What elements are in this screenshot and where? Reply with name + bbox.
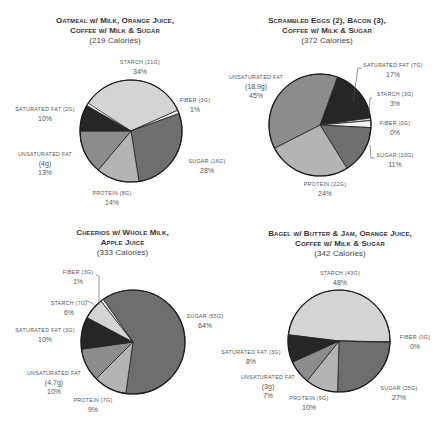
label-grams: (4.7g) <box>22 378 86 387</box>
label-saturated-fat: saturated fat (3g) 8% <box>218 348 284 366</box>
label-percent: 3% <box>370 99 420 108</box>
title-line-1: Oatmeal w/ Milk, Orange Juice, <box>40 16 190 26</box>
label-percent: 0% <box>392 342 438 351</box>
label-percent: 27% <box>372 393 426 402</box>
chart-title-cheerios: Cheerios w/ Whole Milk, Apple Juice (333… <box>60 228 185 258</box>
calories-label: (219 Calories) <box>40 36 190 46</box>
label-starch: starch (7g) 6% <box>46 299 92 317</box>
label-percent: 14% <box>82 198 142 207</box>
label-saturated-fat: saturated fat (7g) 17% <box>360 61 426 79</box>
label-name: sugar (16g) <box>180 157 234 166</box>
label-protein: protein (22g) 24% <box>295 180 355 198</box>
label-percent: 1% <box>58 277 98 286</box>
title-line-1: Cheerios w/ Whole Milk, <box>60 228 185 238</box>
label-starch: starch (3g) 3% <box>370 90 420 108</box>
label-protein: protein (8g) 14% <box>82 189 142 207</box>
title-line-2: Coffee w/ Milk & Sugar <box>40 26 190 36</box>
label-sugar: sugar (10g) 11% <box>370 151 420 169</box>
label-percent: 17% <box>360 70 426 79</box>
chart-title-oatmeal: Oatmeal w/ Milk, Orange Juice, Coffee w/… <box>40 16 190 46</box>
label-name: unsaturated fat <box>22 369 86 378</box>
label-name: fiber (3g) <box>58 268 98 277</box>
label-name: protein (7g) <box>70 396 116 405</box>
label-name: protein (22g) <box>295 180 355 189</box>
label-name: unsaturated fat <box>14 150 76 159</box>
label-percent: 0% <box>372 128 418 137</box>
label-name: saturated fat (2g) <box>8 105 82 114</box>
title-line-2: Coffee w/ Milk & Sugar <box>250 239 430 249</box>
label-percent: 64% <box>180 321 230 330</box>
label-name: protein (8g) <box>82 189 142 198</box>
label-starch: starch (21g) 34% <box>110 58 170 76</box>
label-grams: (3g) <box>238 382 298 391</box>
label-percent: 13% <box>14 168 76 177</box>
label-percent: 48% <box>315 278 365 287</box>
chart-title-eggs-bacon: Scrambled Eggs (2), Bacon (3), Coffee w/… <box>262 16 392 46</box>
label-percent: 10% <box>8 114 82 123</box>
label-name: sugar (10g) <box>370 151 420 160</box>
label-percent: 10% <box>22 387 86 396</box>
label-name: starch (3g) <box>370 90 420 99</box>
label-fiber: fiber (3g) 1% <box>170 96 220 114</box>
label-percent: 1% <box>170 105 220 114</box>
pie-chart-cheerios <box>81 290 185 394</box>
label-percent: 45% <box>224 91 288 100</box>
label-fiber: fiber (3g) 1% <box>58 268 98 286</box>
label-saturated-fat: saturated fat (2g) 10% <box>8 105 82 123</box>
label-name: fiber (0g) <box>392 333 438 342</box>
label-fiber: fiber (0g) 0% <box>372 119 418 137</box>
label-name: unsaturated fat <box>224 73 288 82</box>
label-name: saturated fat (7g) <box>360 61 426 70</box>
label-name: saturated fat (3g) <box>10 326 80 335</box>
title-line-1: Scrambled Eggs (2), Bacon (3), <box>262 16 392 26</box>
title-line-2: Coffee w/ Milk & Sugar <box>262 26 392 36</box>
label-percent: 28% <box>180 166 234 175</box>
label-name: fiber (0g) <box>372 119 418 128</box>
label-grams: (18.9g) <box>224 82 288 91</box>
label-percent: 9% <box>70 405 116 414</box>
label-name: sugar (55g) <box>180 312 230 321</box>
calories-label: (372 Calories) <box>262 36 392 46</box>
label-unsaturated-fat: unsaturated fat (4g) 13% <box>14 150 76 177</box>
label-sugar: sugar (55g) 64% <box>180 312 230 330</box>
label-grams: (4g) <box>14 159 76 168</box>
label-name: sugar (25g) <box>372 384 426 393</box>
label-name: starch (7g) <box>46 299 92 308</box>
label-unsaturated-fat: unsaturated fat (3g) 7% <box>238 373 298 400</box>
label-percent: 7% <box>238 391 298 400</box>
title-line-2: Apple Juice <box>60 238 185 248</box>
label-percent: 10% <box>10 335 80 344</box>
title-line-1: Bagel w/ Butter & Jam, Orange Juice, <box>250 229 430 239</box>
label-saturated-fat: saturated fat (3g) 10% <box>10 326 80 344</box>
pie-slice-starch <box>288 290 390 342</box>
label-percent: 11% <box>370 160 420 169</box>
label-name: starch (21g) <box>110 58 170 67</box>
pie-chart-oatmeal <box>80 80 182 182</box>
label-protein: protein (7g) 9% <box>70 396 116 414</box>
label-name: saturated fat (3g) <box>218 348 284 357</box>
label-name: unsaturated fat <box>238 373 298 382</box>
label-percent: 10% <box>284 403 334 412</box>
label-unsaturated-fat: unsaturated fat (4.7g) 10% <box>22 369 86 396</box>
pie-chart-bagel <box>288 290 390 392</box>
label-sugar: sugar (25g) 27% <box>372 384 426 402</box>
label-sugar: sugar (16g) 28% <box>180 157 234 175</box>
label-percent: 24% <box>295 189 355 198</box>
label-starch: starch (43g) 48% <box>315 269 365 287</box>
calories-label: (333 Calories) <box>60 248 185 258</box>
label-percent: 8% <box>218 357 284 366</box>
label-unsaturated-fat: unsaturated fat (18.9g) 45% <box>224 73 288 100</box>
label-percent: 6% <box>46 308 92 317</box>
label-percent: 34% <box>110 67 170 76</box>
calories-label: (342 Calories) <box>250 249 430 259</box>
label-fiber: fiber (0g) 0% <box>392 333 438 351</box>
label-name: starch (43g) <box>315 269 365 278</box>
chart-title-bagel: Bagel w/ Butter & Jam, Orange Juice, Cof… <box>250 229 430 259</box>
label-name: fiber (3g) <box>170 96 220 105</box>
